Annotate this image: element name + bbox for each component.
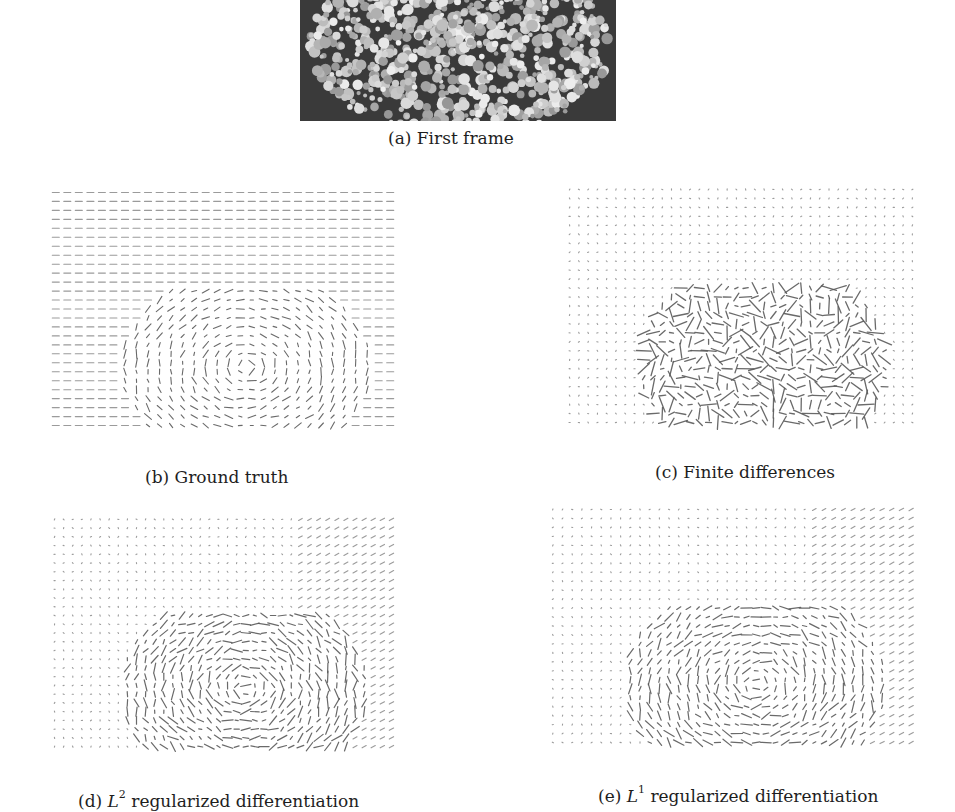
first-frame-photo: [300, 0, 616, 121]
vector-field-finite-differences: [565, 185, 917, 427]
caption-d: (d) L2 regularized differentiation: [78, 790, 359, 811]
caption-d-label: (d): [78, 791, 102, 811]
caption-d-sup: 2: [119, 788, 126, 801]
caption-b-text: Ground truth: [175, 467, 289, 487]
caption-d-text: regularized differentiation: [131, 791, 359, 811]
caption-a: (a) First frame: [388, 128, 514, 148]
caption-c-text: Finite differences: [683, 462, 835, 482]
caption-c: (c) Finite differences: [655, 462, 835, 482]
caption-e: (e) L1 regularized differentiation: [598, 785, 878, 806]
caption-b-label: (b): [145, 467, 169, 487]
vector-field-l1-regularized: [548, 505, 916, 747]
panel-l1-regularized: [548, 505, 916, 747]
panel-ground-truth: [50, 188, 396, 430]
caption-b: (b) Ground truth: [145, 467, 288, 487]
hydrangea-image: [300, 0, 616, 121]
caption-e-var: L: [627, 786, 638, 806]
vector-field-ground-truth: [50, 188, 396, 430]
caption-c-label: (c): [655, 462, 678, 482]
caption-a-text: (a) First frame: [388, 128, 514, 148]
caption-d-var: L: [108, 791, 119, 811]
panel-finite-differences: [565, 185, 917, 427]
caption-e-text: regularized differentiation: [650, 786, 878, 806]
caption-e-sup: 1: [638, 783, 645, 796]
panel-l2-regularized: [50, 515, 396, 751]
caption-e-label: (e): [598, 786, 621, 806]
vector-field-l2-regularized: [50, 515, 396, 751]
